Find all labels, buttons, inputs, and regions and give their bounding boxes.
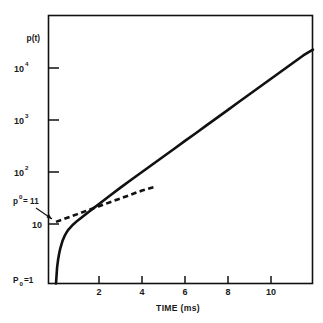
- x-tick-label-2: 2: [96, 287, 101, 297]
- y-axis-ticks: [49, 68, 60, 224]
- x-tick-label-10: 10: [266, 287, 276, 297]
- figure-container: 10 4 10 3 10 2 10 2 4 6 8 10 p(t) TIME (…: [0, 0, 323, 323]
- initial-value-label-base: P: [13, 276, 19, 285]
- x-tick-label-8: 8: [225, 287, 230, 297]
- y-tick-label-1e2-base: 10: [14, 168, 24, 178]
- y-tick-label-10: 10: [32, 220, 42, 230]
- y-tick-label-1e3-base: 10: [14, 116, 24, 126]
- x-tick-label-6: 6: [182, 287, 187, 297]
- y-tick-label-1e4-base: 10: [14, 64, 24, 74]
- y-tick-label-1e3: 10 3: [14, 112, 29, 126]
- y-tick-label-1e4-exponent: 4: [25, 60, 29, 67]
- x-axis-label: TIME (ms): [156, 303, 200, 313]
- log-plot-chart: 10 4 10 3 10 2 10 2 4 6 8 10 p(t) TIME (…: [0, 0, 323, 323]
- data-curve-dashed-asymptote: [56, 187, 155, 222]
- initial-value-label-subscript: 0: [20, 280, 24, 287]
- asymptote-intercept-annotation: p 0 = 11: [13, 193, 52, 219]
- x-axis-ticks: [99, 276, 271, 284]
- y-axis-label: p(t): [27, 33, 41, 43]
- data-curve-solid: [56, 50, 313, 284]
- y-tick-label-1e3-exponent: 3: [25, 112, 29, 119]
- y-tick-label-1e2: 10 2: [14, 164, 29, 178]
- y-tick-label-10-base: 10: [32, 220, 42, 230]
- asymptote-intercept-label-base: p: [13, 197, 18, 206]
- initial-value-label-tail: =1: [24, 276, 34, 285]
- y-tick-label-1e4: 10 4: [14, 60, 29, 74]
- x-tick-label-4: 4: [139, 287, 144, 297]
- plot-frame: [49, 16, 313, 284]
- asymptote-intercept-label-tail: = 11: [23, 197, 39, 206]
- initial-value-annotation: P 0 =1: [13, 276, 34, 287]
- y-tick-label-1e2-exponent: 2: [25, 164, 29, 171]
